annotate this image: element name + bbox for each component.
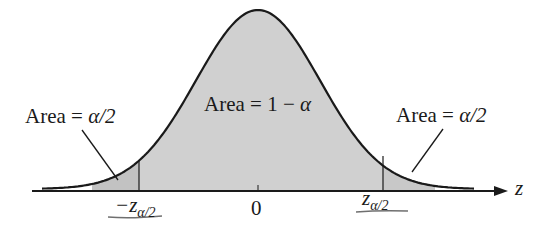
left-tail-fill bbox=[92, 0, 139, 191]
center-area-label: Area = 1 − α bbox=[204, 92, 311, 117]
left-pointer-line bbox=[82, 130, 118, 180]
left-critical-value-label: −zα/2 bbox=[115, 193, 156, 218]
left-tail-area-label: Area = α/2 bbox=[25, 104, 116, 129]
normal-distribution-diagram: Area = α/2 Area = 1 − α Area = α/2 z 0 −… bbox=[0, 0, 538, 230]
z-axis-label: z bbox=[515, 176, 523, 201]
zero-tick-label: 0 bbox=[251, 196, 262, 221]
right-tail-fill bbox=[383, 0, 435, 191]
right-pointer-line bbox=[412, 129, 443, 172]
right-tail-area-label: Area = α/2 bbox=[396, 103, 487, 128]
right-critical-value-label: zα/2 bbox=[362, 186, 388, 211]
axis-arrowhead-icon bbox=[494, 186, 508, 196]
